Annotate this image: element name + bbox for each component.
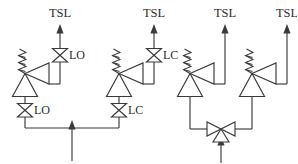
gate-valve-lo-lower <box>18 97 33 117</box>
valve-tag-lo-lower: LO <box>34 103 50 117</box>
outlet-label-tsl-1: TSL <box>49 6 71 20</box>
right-leg-2: TSL <box>240 6 298 97</box>
left-leg-1: LO <box>13 6 86 117</box>
left-leg-2: LC <box>107 6 179 117</box>
spring-symbol-2 <box>113 49 121 74</box>
outlet-label-tsl-2: TSL <box>143 6 165 20</box>
spring-symbol-3 <box>184 49 192 74</box>
outlet-label-tsl-3: TSL <box>214 6 236 20</box>
left-leg-2-connection <box>143 62 154 84</box>
pid-diagram: LO <box>0 0 297 164</box>
right-leg-2-outlet <box>276 24 291 84</box>
outlet-label-tsl-4: TSL <box>276 6 297 20</box>
left-leg-1-outlet-arrow <box>56 24 63 49</box>
gate-valve-lc-upper <box>147 49 162 63</box>
valve-tag-lc-upper: LC <box>163 48 178 62</box>
gate-valve-lc-lower <box>112 97 127 117</box>
left-leg-2-outlet-arrow <box>150 24 157 49</box>
valve-tag-lc-lower: LC <box>128 103 143 117</box>
left-arrangement: LO <box>13 6 179 161</box>
valve-tag-lo-upper: LO <box>69 48 85 62</box>
gate-valve-lo-upper <box>53 49 68 63</box>
spring-symbol-4 <box>246 49 254 74</box>
spring-symbol-1 <box>19 49 27 74</box>
right-arrangement: TSL TSL <box>178 6 298 163</box>
left-inlet-arrow <box>68 120 75 161</box>
right-leg-1-outlet <box>214 24 229 84</box>
left-leg-1-connection <box>49 62 60 84</box>
three-way-valve <box>190 122 252 142</box>
right-leg-1: TSL <box>178 6 237 97</box>
